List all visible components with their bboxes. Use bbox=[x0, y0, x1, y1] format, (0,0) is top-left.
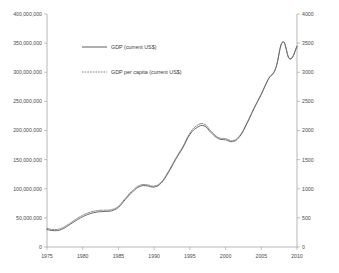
legend-label-gdp-per-capita: GDP per capita (current US$) bbox=[111, 69, 182, 75]
y-axis-right-tick-label: 2500 bbox=[302, 98, 314, 104]
y-axis-left-tick-label: 250,000,000 bbox=[13, 98, 42, 104]
y-axis-left-tick-label: 100,000,000 bbox=[13, 186, 42, 192]
x-axis-tick-label: 2000 bbox=[220, 253, 232, 259]
x-axis-tick-label: 2005 bbox=[256, 253, 268, 259]
y-axis-right-tick-label: 500 bbox=[302, 215, 311, 221]
x-axis-tick-label: 1980 bbox=[77, 253, 89, 259]
y-axis-left-tick-label: 350,000,000 bbox=[13, 40, 42, 46]
legend-label-gdp: GDP (current US$) bbox=[111, 44, 157, 50]
y-axis-right-tick-label: 4000 bbox=[302, 11, 314, 17]
y-axis-left-tick-label: 400,000,000 bbox=[13, 11, 42, 17]
x-axis-tick-label: 1985 bbox=[113, 253, 125, 259]
x-axis-tick-label: 1995 bbox=[184, 253, 196, 259]
y-axis-right-tick-label: 1500 bbox=[302, 157, 314, 163]
y-axis-left-tick-label: 150,000,000 bbox=[13, 157, 42, 163]
y-axis-right-tick-label: 1000 bbox=[302, 186, 314, 192]
gdp-line-chart: 050,000,000100,000,000150,000,000200,000… bbox=[0, 0, 339, 273]
x-axis-tick-label: 2010 bbox=[291, 253, 303, 259]
y-axis-right-tick-label: 2000 bbox=[302, 127, 314, 133]
y-axis-left-tick-label: 0 bbox=[39, 244, 42, 250]
y-axis-right-tick-label: 0 bbox=[302, 244, 305, 250]
chart-canvas: 050,000,000100,000,000150,000,000200,000… bbox=[0, 0, 339, 273]
y-axis-left-tick-label: 50,000,000 bbox=[16, 215, 42, 221]
x-axis-tick-label: 1975 bbox=[41, 253, 53, 259]
y-axis-left-tick-label: 300,000,000 bbox=[13, 69, 42, 75]
x-axis-tick-label: 1990 bbox=[148, 253, 160, 259]
y-axis-right-tick-label: 3500 bbox=[302, 40, 314, 46]
y-axis-left-tick-label: 200,000,000 bbox=[13, 127, 42, 133]
y-axis-right-tick-label: 3000 bbox=[302, 69, 314, 75]
